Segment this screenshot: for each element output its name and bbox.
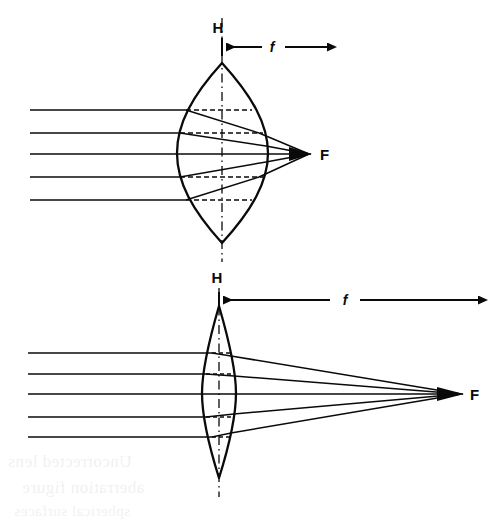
top-focus-point bbox=[289, 147, 312, 161]
bottom-focus-point bbox=[437, 387, 464, 401]
top-internal-ray-2 bbox=[180, 133, 266, 146]
bottom-focal-length-dimension bbox=[219, 292, 478, 308]
top-lens-diagram: H f F bbox=[30, 18, 329, 262]
bottom-outgoing-ray-2 bbox=[234, 376, 461, 394]
bottom-focal-point-label: F bbox=[470, 386, 479, 403]
top-principal-plane-label: H bbox=[213, 19, 224, 36]
optics-figure: Uncorrected lens aberration figure spher… bbox=[0, 0, 495, 523]
bottom-lens-diagram: H f F bbox=[28, 269, 479, 497]
top-focal-length-label: f bbox=[270, 39, 276, 55]
bottom-outgoing-ray-4 bbox=[234, 394, 461, 414]
bottom-outgoing-ray-5 bbox=[231, 394, 461, 433]
bottom-focal-length-label: f bbox=[343, 292, 349, 308]
top-focal-length-dimension bbox=[222, 38, 327, 56]
bottom-principal-plane-label: H bbox=[212, 269, 223, 286]
top-focal-point-label: F bbox=[320, 146, 329, 163]
bottom-outgoing-ray-1 bbox=[231, 356, 461, 394]
optics-diagram-canvas: H f F bbox=[0, 0, 495, 523]
top-internal-ray-4 bbox=[180, 162, 266, 177]
